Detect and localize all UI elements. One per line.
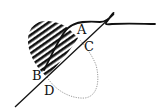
label-d: D [44, 83, 54, 98]
diagram-canvas: A C B D [0, 0, 167, 110]
label-b: B [32, 68, 42, 83]
label-c: C [84, 39, 94, 54]
label-a: A [76, 22, 87, 37]
